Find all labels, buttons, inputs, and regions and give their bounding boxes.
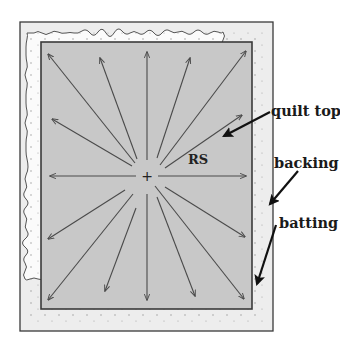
right-side-label: RS bbox=[188, 152, 208, 167]
quilt-layers-diagram: + RS quilt top backing batting bbox=[0, 0, 340, 346]
quilt-top-label: quilt top bbox=[271, 102, 340, 119]
backing-callout-arrow bbox=[270, 171, 298, 204]
backing-label: backing bbox=[274, 154, 339, 171]
center-marker: + bbox=[141, 168, 153, 184]
batting-label: batting bbox=[279, 214, 338, 231]
